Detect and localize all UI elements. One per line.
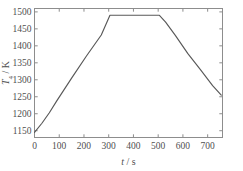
x-tick-label: 500 xyxy=(151,141,166,151)
y-axis-tick-labels: 11501200125013001350140014501500 xyxy=(13,7,32,136)
x-axis-tick-labels: 0100200300400500600700 xyxy=(32,141,215,151)
y-tick-label: 1150 xyxy=(13,126,32,136)
y-tick-label: 1200 xyxy=(13,109,32,119)
plot-background xyxy=(34,8,223,138)
x-tick-label: 100 xyxy=(52,141,67,151)
x-axis-title: t / s xyxy=(121,156,136,167)
x-tick-label: 700 xyxy=(201,141,216,151)
y-tick-label: 1350 xyxy=(13,58,32,68)
y-tick-label: 1450 xyxy=(13,24,32,34)
y-tick-label: 1500 xyxy=(13,7,32,17)
y-tick-label: 1250 xyxy=(13,92,32,102)
x-tick-label: 600 xyxy=(176,141,191,151)
x-tick-label: 400 xyxy=(126,141,141,151)
x-tick-label: 0 xyxy=(32,141,37,151)
line-chart: 0100200300400500600700 11501200125013001… xyxy=(0,0,243,171)
y-tick-label: 1400 xyxy=(13,41,32,51)
x-tick-label: 200 xyxy=(77,141,92,151)
x-tick-label: 300 xyxy=(102,141,117,151)
y-tick-label: 1300 xyxy=(13,75,32,85)
chart-figure: 0100200300400500600700 11501200125013001… xyxy=(0,0,243,171)
